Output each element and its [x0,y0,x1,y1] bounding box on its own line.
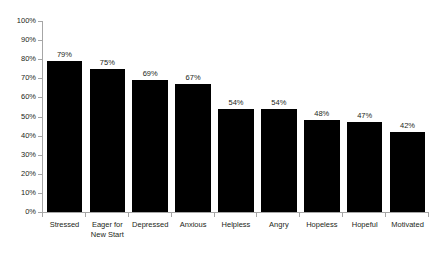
y-axis-tick-mark [38,136,42,137]
x-axis-tick-mark [171,213,172,217]
bar [47,61,83,212]
bar-value-label: 69% [129,69,172,78]
x-axis-category-label: Angry [257,220,300,230]
bar-value-label: 54% [257,98,300,107]
y-axis-tick-mark [38,97,42,98]
plot-area: 79%75%69%67%54%54%48%47%42% [43,21,429,212]
y-axis-tick-label: 50% [0,113,36,121]
x-axis-category-label: Depressed [129,220,172,230]
y-axis-tick-mark [38,155,42,156]
x-axis-tick-mark [428,213,429,217]
bar-group: 42% [386,21,429,212]
x-axis-tick-mark [214,213,215,217]
bar [347,122,383,212]
y-axis-tick-mark [38,21,42,22]
x-axis-tick-mark [299,213,300,217]
y-axis-tick-mark [38,59,42,60]
y-axis-tick-label: 30% [0,151,36,159]
bar [132,80,168,212]
bar-group: 48% [300,21,343,212]
bar-value-label: 75% [86,58,129,67]
bar-group: 69% [129,21,172,212]
bar-value-label: 48% [300,109,343,118]
bar-group: 75% [86,21,129,212]
y-axis-tick-label: 10% [0,189,36,197]
y-axis-tick-label: 40% [0,132,36,140]
x-axis-category-label: Hopeful [343,220,386,230]
bar-value-label: 42% [386,121,429,130]
y-axis-tick-mark [38,40,42,41]
y-axis-tick-mark [38,193,42,194]
x-axis-tick-mark [85,213,86,217]
x-axis-category-label: Stressed [43,220,86,230]
y-axis-tick-label: 70% [0,74,36,82]
y-axis-tick-mark [38,174,42,175]
y-axis-tick-label: 80% [0,55,36,63]
y-axis-tick-labels: 100%90%80%70%60%50%40%30%20%10%0% [0,0,36,263]
x-axis-category-label: Eager for New Start [86,220,129,240]
y-axis-tick-label: 20% [0,170,36,178]
x-axis-tick-mark [342,213,343,217]
bar [218,109,254,212]
x-axis-category-label: Hopeless [300,220,343,230]
bar-group: 67% [172,21,215,212]
bar [175,84,211,212]
bar-group: 79% [43,21,86,212]
bar-value-label: 47% [343,111,386,120]
x-axis-tick-mark [128,213,129,217]
bar [90,69,126,212]
y-axis-tick-label: 60% [0,93,36,101]
y-axis-tick-label: 90% [0,36,36,44]
bar-group: 54% [257,21,300,212]
bar-group: 47% [343,21,386,212]
x-axis-line [42,212,429,213]
x-axis-category-label: Anxious [172,220,215,230]
y-axis-tick-label: 100% [0,17,36,25]
y-axis-tick-mark [38,117,42,118]
x-axis-category-labels: StressedEager for New StartDepressedAnxi… [43,220,429,260]
bar [390,132,426,212]
bar-value-label: 67% [172,73,215,82]
x-axis-category-label: Helpless [215,220,258,230]
x-axis-tick-mark [42,213,43,217]
bar-value-label: 79% [43,50,86,59]
bar-value-label: 54% [215,98,258,107]
y-axis-tick-mark [38,78,42,79]
bar [304,120,340,212]
bar [261,109,297,212]
y-axis-tick-label: 0% [0,208,36,216]
x-axis-tick-mark [256,213,257,217]
bar-chart: 100%90%80%70%60%50%40%30%20%10%0% 79%75%… [0,0,444,263]
bar-group: 54% [215,21,258,212]
x-axis-category-label: Motivated [386,220,429,230]
x-axis-tick-mark [385,213,386,217]
